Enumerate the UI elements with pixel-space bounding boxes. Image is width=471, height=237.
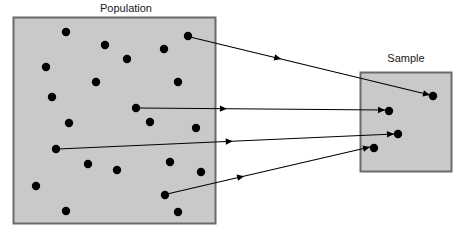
population-dot xyxy=(65,119,73,127)
sample-dot xyxy=(429,92,437,100)
sample-label: Sample xyxy=(387,52,424,64)
population-dot xyxy=(101,41,109,49)
population-dot xyxy=(146,118,154,126)
population-dot xyxy=(32,182,40,190)
population-dot xyxy=(92,78,100,86)
sample-dot xyxy=(370,144,378,152)
population-dot xyxy=(166,158,174,166)
population-dot xyxy=(62,28,70,36)
arrow-1-line xyxy=(190,37,430,95)
population-dot xyxy=(132,104,140,112)
population-dot xyxy=(123,55,131,63)
arrow-4-mid-arrowhead xyxy=(237,175,245,181)
population-dot xyxy=(197,168,205,176)
population-dot xyxy=(174,78,182,86)
population-dot xyxy=(62,207,70,215)
sample-dot xyxy=(394,130,402,138)
population-dot xyxy=(52,145,60,153)
population-dot xyxy=(113,166,121,174)
boxes-layer xyxy=(14,18,452,224)
population-dot xyxy=(174,208,182,216)
arrow-1-mid-arrowhead xyxy=(274,54,282,60)
arrow-2-mid-arrowhead xyxy=(220,105,227,111)
population-dot xyxy=(42,63,50,71)
population-dot xyxy=(184,32,192,40)
population-dot xyxy=(161,191,169,199)
population-label: Population xyxy=(100,2,152,14)
population-box xyxy=(14,18,216,224)
sampling-diagram: PopulationSample xyxy=(0,0,471,237)
sample-box xyxy=(361,73,452,172)
population-dot xyxy=(160,45,168,53)
sample-dot xyxy=(385,107,393,115)
population-dot xyxy=(48,93,56,101)
population-dot xyxy=(84,160,92,168)
diagram-canvas: PopulationSample xyxy=(0,0,471,237)
population-dot xyxy=(192,124,200,132)
arrow-3-mid-arrowhead xyxy=(226,138,233,144)
